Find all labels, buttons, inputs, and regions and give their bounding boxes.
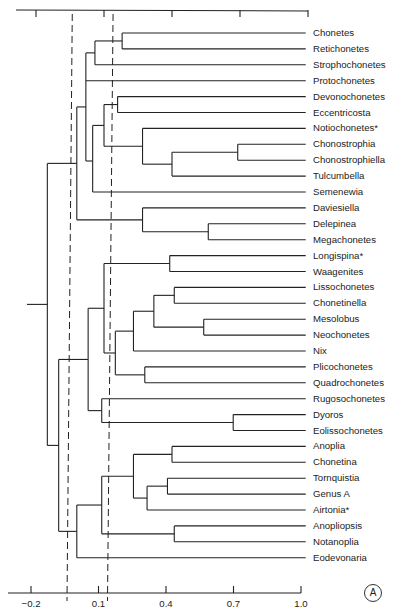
bottom-axis [8, 586, 301, 593]
leaf-label: Chonostrophiella [313, 154, 385, 166]
leaf-label: Chonetes [313, 27, 354, 39]
leaf-label: Mesolobus [313, 313, 359, 325]
top-axis [16, 10, 308, 17]
leaf-label: Semenewia [313, 186, 363, 198]
leaf-label: Rugosochonetes [313, 393, 385, 405]
leaf-label: Quadrochonetes [313, 377, 384, 389]
panel-label-badge: A [364, 584, 382, 602]
leaf-label: Lissochonetes [313, 281, 374, 293]
leaf-label: Delepinea [313, 218, 356, 230]
leaf-label: Eodevonaria [313, 552, 367, 564]
leaf-label: Megachonetes [313, 234, 376, 246]
leaf-label: Protochonetes [313, 75, 375, 87]
leaf-label: Tulcumbella [313, 170, 364, 182]
tick-label: 0.1 [92, 598, 105, 610]
leaf-label: Airtonia* [313, 504, 349, 516]
leaf-label: Devonochonetes [313, 91, 385, 103]
leaf-label: Nix [313, 345, 327, 357]
tick-label: 0.7 [227, 598, 240, 610]
leaf-label: Tornquistia [313, 472, 359, 484]
leaf-label: Chonetinella [313, 297, 366, 309]
leaf-label: Notanoplia [313, 536, 359, 548]
dashed-reference-lines [67, 14, 113, 601]
leaf-label: Eccentricosta [313, 107, 371, 119]
leaf-label: Dyoros [313, 409, 343, 421]
leaf-label: Waagenites [313, 266, 363, 278]
leaf-label: Notiochonetes* [313, 122, 378, 134]
tick-label: 1.0 [294, 598, 307, 610]
leaf-label: Chonetina [313, 456, 357, 468]
leaf-label: Neochonetes [313, 329, 370, 341]
leaf-label: Chonostrophia [313, 138, 375, 150]
leaf-label: Plicochonetes [313, 361, 373, 373]
tick-label: −0.2 [22, 598, 41, 610]
leaf-label: Daviesiella [313, 202, 359, 214]
tree-branches [27, 33, 306, 558]
leaf-label: Anopliopsis [313, 520, 362, 532]
leaf-label: Strophochonetes [313, 59, 386, 71]
leaf-label: Retichonetes [313, 43, 369, 55]
leaf-label: Genus A [313, 488, 350, 500]
leaf-label: Anoplia [313, 440, 345, 452]
leaf-label: Eolissochonetes [313, 425, 383, 437]
tick-label: 0.4 [159, 598, 172, 610]
leaf-label: Longispina* [313, 250, 363, 262]
